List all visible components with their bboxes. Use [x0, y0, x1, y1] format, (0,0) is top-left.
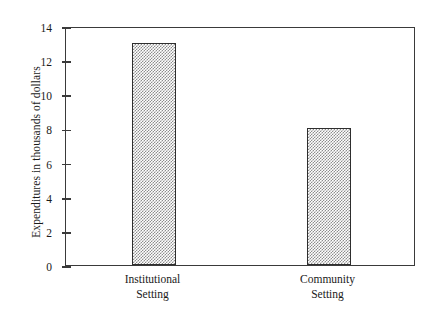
y-tick-label: 0: [24, 258, 52, 276]
x-axis-label-line: Institutional: [125, 273, 181, 285]
y-tick-mark: [62, 198, 71, 200]
clipped-top-caption: [0, 0, 432, 2]
y-tick-label: 12: [24, 53, 52, 71]
y-tick-mark: [62, 27, 71, 29]
y-tick-label: 10: [24, 87, 52, 105]
y-tick-mark: [62, 61, 71, 63]
plot-area: 02468101214: [65, 27, 415, 266]
y-tick-mark: [62, 130, 71, 132]
x-axis-category-label: InstitutionalSetting: [65, 272, 240, 302]
y-tick-mark: [62, 164, 71, 166]
x-axis-label-line: Setting: [240, 287, 415, 302]
y-tick-mark: [62, 266, 71, 268]
x-axis-label-line: Community: [300, 273, 355, 285]
bar: [307, 128, 351, 265]
y-tick-mark: [62, 232, 71, 234]
bar-chart: Expenditures in thousands of dollars 024…: [0, 0, 432, 323]
x-axis-category-label: CommunitySetting: [240, 272, 415, 302]
y-tick-label: 4: [24, 190, 52, 208]
y-tick-mark: [62, 95, 71, 97]
bar: [132, 43, 176, 265]
x-axis-label-line: Setting: [65, 287, 240, 302]
y-tick-label: 14: [24, 19, 52, 37]
y-tick-label: 6: [24, 156, 52, 174]
y-tick-label: 8: [24, 121, 52, 139]
y-tick-label: 2: [24, 224, 52, 242]
